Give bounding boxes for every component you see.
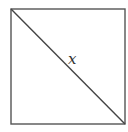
geometry-diagram: x [0,0,128,132]
diagonal-label: x [68,52,76,67]
square-diagram-svg [0,0,128,132]
